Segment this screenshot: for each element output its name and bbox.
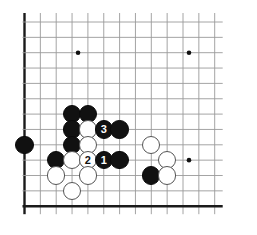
stone-move-number: 2: [85, 154, 91, 165]
star-point-right: [187, 158, 192, 163]
stone-move-number: 3: [101, 123, 107, 134]
go-board-grid: [0, 0, 257, 235]
stone-move-number: 1: [101, 154, 107, 165]
star-point-top-right: [187, 50, 192, 55]
stone-black[interactable]: [110, 120, 128, 138]
stone-white[interactable]: [47, 166, 65, 184]
stone-black[interactable]: [15, 136, 33, 154]
stone-black[interactable]: [110, 151, 128, 169]
go-board-diagram: 321: [0, 0, 257, 235]
star-point-top-left: [76, 50, 81, 55]
stone-white[interactable]: [158, 166, 176, 184]
stone-white[interactable]: [79, 166, 97, 184]
